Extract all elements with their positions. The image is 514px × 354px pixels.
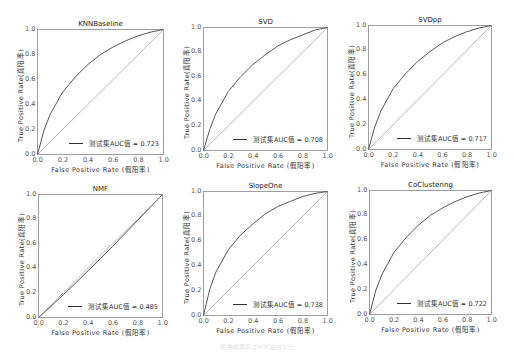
y-tick-label: 0.2 [26,288,36,296]
diagonal-reference-line [369,26,492,150]
y-tick-label: 1.0 [356,21,366,29]
diagonal-reference-line [38,30,164,155]
y-axis-label: True Positive Rate(真阳率) [181,46,191,139]
y-tick-label: 0.0 [26,313,36,321]
legend-label: 测试集AUC值 = 0.708 [253,134,323,144]
y-tick-label: 0.4 [357,260,367,268]
legend-label: 测试集AUC值 = 0.485 [88,301,158,311]
roc-panel-nmf: NMF0.00.20.40.60.81.00.00.20.40.60.81.0F… [38,194,163,318]
legend: 测试集AUC值 = 0.723 [69,138,159,148]
y-axis-label: True Positive Rate(真阳率) [347,209,357,302]
diagonal-reference-line [370,191,492,315]
x-tick-label: 0.6 [437,151,447,159]
legend-label: 测试集AUC值 = 0.717 [417,133,487,143]
y-tick-label: 0.8 [26,214,36,222]
y-tick-label: 0.6 [191,72,201,80]
x-tick-label: 0.6 [438,316,448,324]
legend-label: 测试集AUC值 = 0.722 [417,298,487,308]
legend: 测试集AUC值 = 0.722 [397,298,487,308]
y-tick-label: 0.6 [357,235,367,243]
x-tick-label: 0.2 [223,317,233,325]
y-tick-label: 0.8 [191,47,201,55]
x-tick-label: 0.8 [298,152,308,160]
legend-line-swatch [233,304,247,305]
y-tick-label: 0.6 [356,70,366,78]
x-axis-label: False Positive Rate (假阳率) [193,325,338,335]
legend: 测试集AUC值 = 0.717 [397,133,487,143]
x-tick-label: 0.4 [83,319,93,327]
y-tick-label: 0.2 [357,285,367,293]
y-tick-label: 0.8 [25,50,35,58]
y-tick-label: 0.2 [356,120,366,128]
x-tick-label: 1.0 [487,151,497,159]
x-tick-label: 0.2 [58,319,68,327]
legend-line-swatch [397,303,411,304]
x-tick-label: 1.0 [159,156,169,164]
x-tick-label: 0.6 [108,319,118,327]
chart-title: SlopeOne [203,182,328,190]
plot-area [203,27,328,151]
x-tick-label: 1.0 [323,152,333,160]
y-tick-label: 0.6 [26,239,36,247]
x-tick-label: 1.0 [323,317,333,325]
roc-panel-knnbaseline: KNNBaseline0.00.20.40.60.81.00.00.20.40.… [37,29,164,155]
y-tick-label: 0.6 [25,75,35,83]
x-tick-label: 0.8 [462,316,472,324]
plot-area [38,194,163,318]
x-tick-label: 0.4 [413,316,423,324]
x-axis-label: False Positive Rate (假阳率) [359,324,502,334]
diagonal-reference-line [204,28,328,151]
y-tick-label: 1.0 [25,25,35,33]
y-tick-label: 0.2 [25,125,35,133]
y-tick-label: 1.0 [191,187,201,195]
y-tick-label: 0.8 [191,211,201,219]
y-tick-label: 0.4 [356,95,366,103]
y-axis-label: True Positive Rate(真阳率) [346,44,356,137]
plot-area [368,25,492,150]
diagonal-reference-line [39,195,163,318]
y-tick-label: 0.0 [191,146,201,154]
x-axis-label: False Positive Rate (假阳率) [193,160,338,170]
y-tick-label: 0.2 [191,121,201,129]
y-tick-label: 0.4 [191,96,201,104]
y-tick-label: 0.0 [356,145,366,153]
x-tick-label: 0.8 [133,319,143,327]
y-axis-label: True Positive Rate(真阳率) [15,49,25,142]
roc-panel-coclustering: CoClustering0.00.20.40.60.81.00.00.20.40… [369,190,492,315]
y-tick-label: 0.8 [357,210,367,218]
legend-line-swatch [69,143,83,144]
chart-title: KNNBaseline [37,20,164,28]
y-tick-label: 1.0 [26,190,36,198]
x-tick-label: 0.4 [248,152,258,160]
plot-area [369,190,492,315]
x-tick-label: 0.2 [388,151,398,159]
x-tick-label: 0.6 [108,156,118,164]
legend-line-swatch [68,306,82,307]
x-axis-label: False Positive Rate (假阳率) [28,327,173,337]
x-tick-label: 0.8 [462,151,472,159]
chart-title: SVDpp [368,16,492,24]
x-tick-label: 0.4 [83,156,93,164]
plot-area [203,191,328,316]
x-axis-label: False Positive Rate (假阳率) [358,159,502,169]
x-tick-label: 0.2 [223,152,233,160]
legend-line-swatch [397,138,411,139]
x-tick-label: 0.6 [273,317,283,325]
roc-panel-svdpp: SVDpp0.00.20.40.60.81.00.00.20.40.60.81.… [368,25,492,150]
x-tick-label: 0.6 [273,152,283,160]
x-tick-label: 0.2 [389,316,399,324]
y-tick-label: 0.4 [191,261,201,269]
y-tick-label: 0.4 [26,263,36,271]
chart-title: SVD [203,18,328,26]
y-tick-label: 1.0 [357,186,367,194]
y-tick-label: 0.4 [25,100,35,108]
x-tick-label: 1.0 [158,319,168,327]
x-tick-label: 0.8 [298,317,308,325]
x-tick-label: 1.0 [487,316,497,324]
y-tick-label: 0.6 [191,236,201,244]
legend-line-swatch [233,139,247,140]
roc-panel-svd: SVD0.00.20.40.60.81.00.00.20.40.60.81.0F… [203,27,328,151]
y-tick-label: 0.8 [356,45,366,53]
y-tick-label: 0.0 [191,311,201,319]
legend: 测试集AUC值 = 0.485 [68,301,158,311]
